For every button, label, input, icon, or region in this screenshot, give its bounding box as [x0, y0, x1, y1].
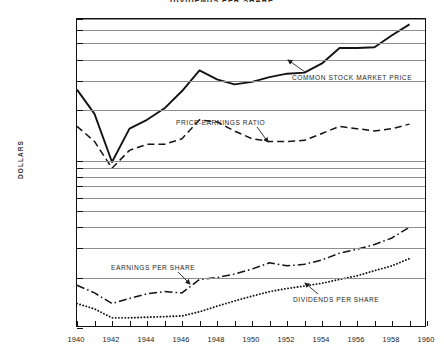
x-tick-mark: [147, 321, 148, 326]
chart-root: DIVIDENDS PER SHARE DOLLARS COMMON STOCK…: [0, 0, 444, 364]
x-tick-label: 1954: [312, 335, 329, 344]
x-tick-label: 1948: [207, 335, 224, 344]
y-tick-mark: [77, 30, 83, 31]
x-tick-label: 1946: [172, 335, 189, 344]
x-tick-mark: [375, 321, 376, 326]
grid-line: [77, 19, 425, 20]
x-tick-mark: [340, 321, 341, 326]
x-tick-label: 1944: [137, 335, 154, 344]
x-tick-label: 1940: [67, 335, 84, 344]
plot-area: [76, 18, 426, 327]
x-tick-mark: [270, 321, 271, 326]
grid-line: [77, 168, 425, 169]
y-tick-mark: [77, 60, 83, 61]
x-tick-mark: [77, 321, 78, 326]
y-tick-mark: [77, 19, 83, 20]
y-tick-mark: [77, 177, 83, 178]
grid-line: [77, 248, 425, 249]
x-tick-mark: [130, 321, 131, 326]
x-tick-label: 1942: [102, 335, 119, 344]
y-tick-mark: [77, 211, 83, 212]
x-tick-label: 1958: [382, 335, 399, 344]
x-tick-mark: [200, 321, 201, 326]
y-tick-mark: [77, 186, 83, 187]
annotation-common-stock-market-price: COMMON STOCK MARKET PRICE: [292, 74, 412, 81]
x-tick-label: 1950: [242, 335, 259, 344]
grid-line: [77, 161, 425, 162]
y-tick-mark: [77, 161, 83, 162]
x-tick-mark: [427, 321, 428, 326]
annotation-price-earnings-ratio: PRICE-EARNINGS RATIO: [176, 119, 265, 126]
y-tick-mark: [77, 168, 83, 169]
x-tick-mark: [357, 321, 358, 326]
x-tick-label: 1952: [277, 335, 294, 344]
x-tick-mark: [305, 321, 306, 326]
grid-line: [77, 198, 425, 199]
x-tick-mark: [410, 321, 411, 326]
x-tick-mark: [235, 321, 236, 326]
y-tick-mark: [77, 248, 83, 249]
grid-line: [77, 278, 425, 279]
x-tick-mark: [322, 321, 323, 326]
y-tick-mark: [77, 278, 83, 279]
x-tick-mark: [95, 321, 96, 326]
y-tick-mark: [77, 227, 83, 228]
chart-title: DIVIDENDS PER SHARE: [0, 0, 444, 2]
annotation-earnings-per-share: EARNINGS PER SHARE: [111, 264, 195, 271]
grid-line: [77, 30, 425, 31]
grid-line: [77, 211, 425, 212]
x-tick-mark: [217, 321, 218, 326]
x-tick-mark: [287, 321, 288, 326]
x-tick-mark: [182, 321, 183, 326]
x-tick-label: 1956: [347, 335, 364, 344]
y-tick-mark: [77, 43, 83, 44]
x-tick-label: 1960: [417, 335, 434, 344]
x-tick-mark: [252, 321, 253, 326]
series-layer: [77, 19, 427, 328]
annotation-dividends-per-share: DIVIDENDS PER SHARE: [293, 296, 379, 303]
grid-line: [77, 43, 425, 44]
y-tick-mark: [77, 81, 83, 82]
y-axis-label: DOLLARS: [17, 130, 24, 190]
grid-line: [77, 60, 425, 61]
y-tick-mark: [77, 110, 83, 111]
y-tick-mark: [77, 198, 83, 199]
grid-line: [77, 227, 425, 228]
y-tick-mark: [77, 328, 83, 329]
series-line: [77, 24, 410, 162]
x-tick-mark: [392, 321, 393, 326]
grid-line: [77, 110, 425, 111]
grid-line: [77, 177, 425, 178]
x-tick-mark: [112, 321, 113, 326]
x-tick-mark: [165, 321, 166, 326]
grid-line: [77, 186, 425, 187]
